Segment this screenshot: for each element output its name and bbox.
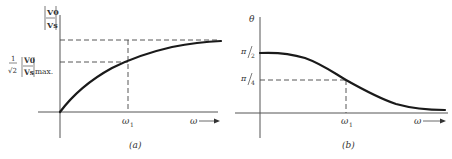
svg-text:1: 1 [130, 121, 134, 128]
panel-a-y-label: V0 Vs [45, 6, 59, 30]
svg-text:ω: ω [341, 116, 349, 126]
svg-text:ω: ω [414, 116, 422, 126]
panel-b-x-axis-label: ω [414, 116, 446, 126]
arrow-right-icon [440, 119, 446, 124]
svg-text:1: 1 [11, 55, 15, 63]
panel-a-magnitude-curve [60, 41, 221, 112]
svg-text:ω: ω [190, 116, 198, 126]
svg-text:√2: √2 [8, 67, 17, 75]
panel-b-y-label: θ [249, 14, 255, 24]
figure-svg: V0 Vs 1 √2 V0 Vs max. ω 1 ω (a) [0, 0, 452, 159]
svg-text:1: 1 [349, 121, 353, 128]
panel-b-tick-pi4: π 4 [240, 73, 255, 86]
svg-text:ω: ω [122, 116, 130, 126]
svg-text:4: 4 [251, 79, 255, 86]
svg-text:Vs: Vs [46, 20, 58, 30]
panel-b-tick-pi2: π 2 [240, 46, 255, 59]
svg-text:2: 2 [251, 52, 255, 59]
panel-a-half-power-label: 1 √2 V0 Vs max. [8, 55, 53, 77]
svg-text:V0: V0 [46, 7, 59, 17]
panel-b-caption: (b) [342, 140, 355, 150]
panel-a-omega1-tick: ω 1 [122, 116, 134, 128]
panel-b-phase-curve [260, 53, 445, 110]
panel-a-x-axis-label: ω [190, 116, 220, 126]
panel-a-caption: (a) [129, 140, 142, 150]
svg-text:V0: V0 [23, 56, 35, 65]
svg-text:Vs: Vs [23, 68, 34, 77]
panel-b-omega1-tick: ω 1 [341, 116, 353, 128]
panel-a: V0 Vs 1 √2 V0 Vs max. ω 1 ω (a) [8, 6, 221, 150]
arrow-right-icon [214, 119, 220, 124]
svg-text:π: π [240, 47, 247, 56]
figure: V0 Vs 1 √2 V0 Vs max. ω 1 ω (a) [0, 0, 452, 159]
panel-b: θ π 2 π 4 ω 1 ω (b) [235, 14, 448, 150]
svg-text:π: π [240, 74, 247, 83]
svg-text:max.: max. [35, 67, 53, 76]
